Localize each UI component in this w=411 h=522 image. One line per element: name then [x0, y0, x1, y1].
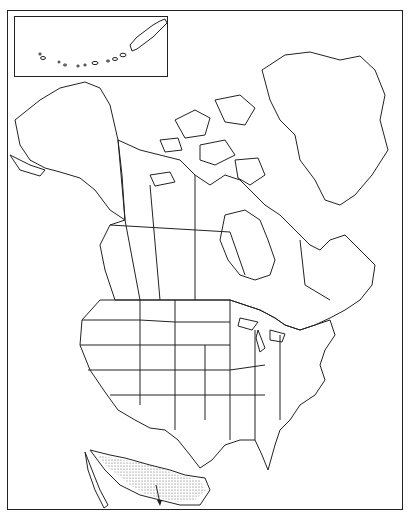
alaska — [15, 82, 125, 220]
greenland — [262, 52, 388, 205]
hudson-bay — [220, 210, 275, 280]
aleutian-islands — [15, 17, 169, 78]
united-states — [80, 300, 335, 470]
aleutian-inset — [14, 16, 168, 77]
canada — [100, 140, 375, 330]
north-america-map — [0, 0, 411, 522]
